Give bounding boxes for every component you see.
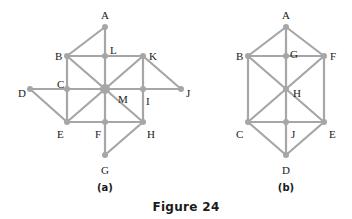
vertex-label: H [147,128,155,140]
vertex-m [100,84,110,94]
vertex-label: K [149,50,157,62]
edge-a-b [67,27,105,56]
vertex-label: J [186,87,191,99]
vertex-a [102,24,108,30]
vertex-label: B [55,50,62,62]
figure-b: ABGFHCJED(b) [236,9,336,193]
vertex-e [64,119,70,125]
edge-h-c [248,89,286,122]
edge-f-h [286,56,324,89]
edge-d-e [30,89,67,122]
graph-diagram: ABLKDCMIJEFHG(a) ABGFHCJED(b) Figure 24 [0,0,352,219]
vertex-d [283,152,289,158]
vertex-label: E [57,128,64,140]
vertex-b [64,53,70,59]
vertex-label: B [236,50,243,62]
subfigure-label-b: (b) [278,182,294,193]
vertex-label: J [291,128,296,140]
vertex-label: G [101,164,109,176]
vertex-label: F [330,50,336,62]
vertex-label: E [329,128,336,140]
vertex-g [102,152,108,158]
vertex-e [321,119,327,125]
vertex-j [178,86,184,92]
vertex-g [283,53,289,59]
vertex-k [140,53,146,59]
vertex-label: G [290,48,298,60]
vertex-h [140,119,146,125]
vertex-label: M [118,93,128,105]
figure-caption: Figure 24 [152,200,219,214]
edge-b-h [248,56,286,89]
vertex-label: F [95,128,101,140]
vertex-b [245,53,251,59]
vertex-label: D [18,87,26,99]
edge-h-g [105,122,143,155]
vertex-d [27,86,33,92]
vertex-a [283,24,289,30]
edge-h-e [286,89,324,122]
vertex-label: I [146,95,150,107]
vertex-j [283,119,289,125]
edge-c-d [248,122,286,155]
vertex-label: A [101,9,109,21]
vertex-label: L [110,44,117,56]
vertex-i [140,86,146,92]
vertex-l [102,53,108,59]
vertex-f [321,53,327,59]
edge-b-m [67,56,105,89]
vertex-label: D [282,164,290,176]
vertex-label: A [282,9,290,21]
subfigure-label-a: (a) [97,182,113,193]
vertex-label: H [293,87,301,99]
edge-m-e [67,89,105,122]
vertex-label: C [57,78,64,90]
vertex-label: C [236,128,243,140]
vertex-c [245,119,251,125]
edge-k-m [105,56,143,89]
vertex-h [283,86,289,92]
vertex-f [102,119,108,125]
vertex-c [64,86,70,92]
figure-a: ABLKDCMIJEFHG(a) [18,9,191,193]
edge-a-b [248,27,286,56]
